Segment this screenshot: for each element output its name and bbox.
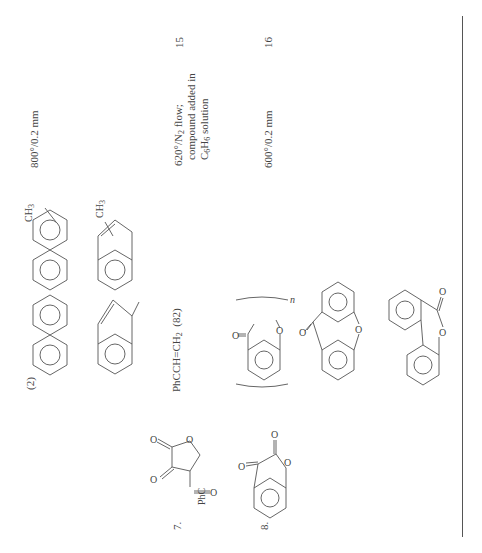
methyleneindene-structure — [95, 296, 140, 376]
xanthone-structure: O O — [303, 272, 373, 387]
table-bottom-rule — [462, 16, 463, 537]
svg-text:O: O — [210, 487, 217, 498]
conditions-line-3: C6H6 solution — [198, 73, 211, 166]
svg-text:O: O — [150, 474, 157, 485]
methyl-label-2: CH3 — [94, 200, 106, 218]
svg-text:O: O — [439, 327, 446, 338]
reference-row-7: 15 — [173, 37, 185, 48]
compound-8-structure: O O O — [240, 432, 302, 528]
compound-7-phc-label: PhC — [196, 488, 208, 505]
entry-label-7: 7. — [171, 522, 183, 530]
benzocoumarin-structure: O O — [383, 285, 453, 400]
svg-text:O: O — [299, 327, 306, 338]
svg-text:O: O — [276, 325, 283, 336]
polymer-repeat-unit-structure: O O n — [232, 298, 300, 388]
compound-7-structure: O O O O — [152, 435, 227, 515]
conditions-line-1: 620°/N2 flow; — [172, 73, 185, 166]
svg-text:O: O — [232, 330, 239, 341]
svg-text:O: O — [355, 324, 362, 335]
conditions-row-8: 600°/0.2 mm — [262, 110, 274, 168]
svg-text:O: O — [150, 434, 157, 445]
svg-text:O: O — [186, 434, 193, 445]
conditions-line-2: compound added in — [185, 73, 198, 166]
conditions-row-7: 620°/N2 flow; compound added in C6H6 sol… — [172, 73, 211, 166]
product-phcch-ch2: PhCCH=CH2 (82) — [170, 308, 182, 392]
svg-text:O: O — [439, 286, 446, 297]
naphthalene-structure — [30, 295, 70, 375]
svg-text:O: O — [284, 457, 291, 468]
conditions-row-2: 800°/0.2 mm — [28, 110, 40, 168]
methyl-label-1: CH3 — [23, 204, 35, 222]
methylnaphthalene-structure — [30, 210, 70, 290]
methylindene-structure — [95, 212, 140, 292]
svg-text:O: O — [271, 429, 278, 440]
svg-text:n: n — [290, 294, 295, 305]
svg-text:O: O — [238, 461, 245, 472]
reference-row-8: 16 — [262, 37, 274, 48]
entry-label-2: (2) — [24, 377, 36, 390]
